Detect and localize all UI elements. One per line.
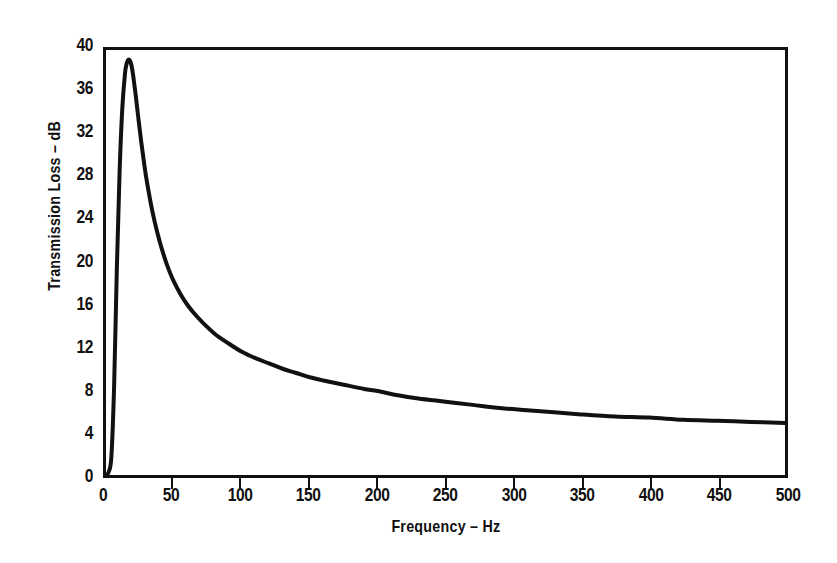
x-tick-label-text: 150 (296, 484, 321, 506)
x-tick-label: 200 (342, 484, 412, 506)
y-tick-label: 28 (54, 163, 93, 185)
y-tick-label: 16 (54, 293, 93, 315)
y-tick-label: 40 (54, 34, 93, 56)
x-tick-label-text: 400 (639, 484, 664, 506)
x-tick-label: 250 (411, 484, 481, 506)
x-tick-label-text: 500 (776, 484, 801, 506)
x-axis-title-text: Frequency – Hz (391, 517, 500, 537)
x-tick-label-text: 250 (433, 484, 458, 506)
x-tick-label-text: 350 (570, 484, 595, 506)
y-tick-label: 20 (54, 250, 93, 272)
chart-figure: Transmission Loss – dB 04812162024283236… (0, 0, 837, 563)
y-tick-label: 36 (54, 77, 93, 99)
y-tick-label: 4 (54, 422, 93, 444)
y-tick-label: 24 (54, 206, 93, 228)
x-tick-label: 350 (548, 484, 618, 506)
transmission-loss-curve (106, 60, 785, 475)
x-tick-label: 100 (205, 484, 275, 506)
x-tick-label: 450 (685, 484, 755, 506)
x-tick-label-text: 50 (163, 484, 180, 506)
x-tick-label-text: 100 (228, 484, 253, 506)
x-tick-label: 400 (616, 484, 686, 506)
x-tick-label-text: 0 (99, 484, 107, 506)
x-tick-label-text: 200 (365, 484, 390, 506)
x-tick-label-text: 450 (707, 484, 732, 506)
x-tick-label: 300 (479, 484, 549, 506)
x-tick-label-text: 300 (502, 484, 527, 506)
x-tick-label: 500 (753, 484, 823, 506)
y-tick-label: 12 (54, 336, 93, 358)
data-curve (106, 50, 785, 475)
x-tick-label: 0 (68, 484, 138, 506)
plot-area (103, 47, 788, 478)
x-tick-label: 50 (137, 484, 207, 506)
y-tick-label: 32 (54, 120, 93, 142)
x-tick-label: 150 (274, 484, 344, 506)
y-tick-label: 8 (54, 379, 93, 401)
x-axis-title: Frequency – Hz (103, 517, 788, 537)
